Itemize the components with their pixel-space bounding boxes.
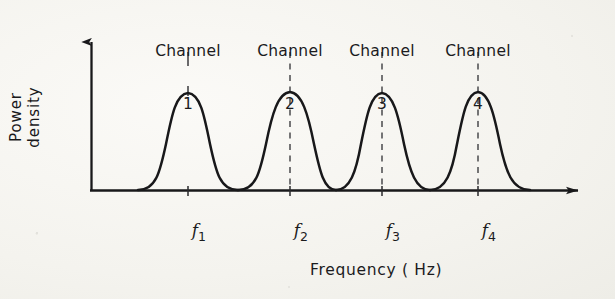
channel-label-4: Channel 4	[418, 8, 538, 148]
freq-subscript-3: 3	[392, 229, 400, 244]
freq-subscript-2: 2	[300, 229, 308, 244]
frequency-tick-label-3: f3	[358, 202, 406, 259]
figure-canvas: Channel 1 Channel 2 Channel 3 Channel 4 …	[0, 0, 615, 299]
freq-subscript-1: 1	[198, 229, 206, 244]
y-axis-title-line2: density	[26, 58, 44, 176]
freq-subscript-4: 4	[488, 229, 496, 244]
frequency-tick-label-4: f4	[454, 202, 502, 259]
channel-4-number: 4	[418, 96, 538, 113]
channel-4-name: Channel	[418, 43, 538, 60]
x-axis-title: Frequency ( Hz)	[310, 262, 442, 279]
frequency-tick-label-2: f2	[266, 202, 314, 259]
y-axis-title-line1: Power	[8, 58, 26, 176]
y-axis-title: Power density	[8, 58, 43, 176]
frequency-tick-label-1: f1	[164, 202, 212, 259]
